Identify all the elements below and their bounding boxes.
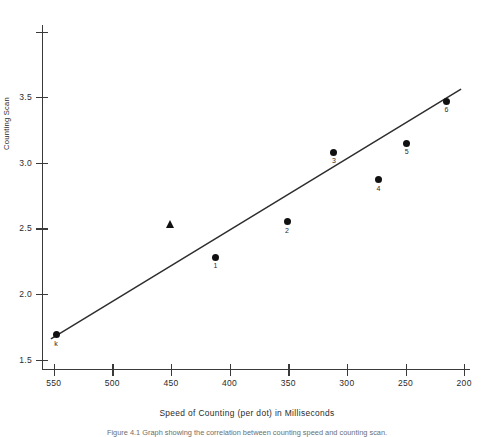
data-point-label-5: 5 <box>405 148 409 155</box>
data-point-label-1: 1 <box>213 262 217 269</box>
data-point-6 <box>443 98 450 105</box>
data-point-label-3: 3 <box>332 157 336 164</box>
data-point-label-k: k <box>54 340 58 347</box>
x-tick-label-300: 300 <box>327 378 367 388</box>
y-tick-2 <box>36 294 48 295</box>
regression-line <box>42 25 470 370</box>
y-tick-2.5 <box>36 228 48 229</box>
data-point-5 <box>403 140 410 147</box>
plot-area: 1.52.02.53.03.5 550500450400350300250200… <box>42 25 470 370</box>
figure-scatter-plot: Counting Scan Speed of Counting (per dot… <box>0 0 494 437</box>
x-tick-250 <box>406 364 407 376</box>
x-tick-label-200: 200 <box>444 378 484 388</box>
data-point-label-2: 2 <box>285 227 289 234</box>
x-tick-label-250: 250 <box>386 378 426 388</box>
y-tick-3 <box>36 163 48 164</box>
x-tick-400 <box>230 364 231 376</box>
y-tick-label-3.0: 3.0 <box>2 158 32 168</box>
x-tick-label-550: 550 <box>34 378 74 388</box>
y-tick-label-2.0: 2.0 <box>2 289 32 299</box>
figure-caption: Figure 4.1 Graph showing the correlation… <box>0 428 494 437</box>
x-tick-200 <box>464 364 465 376</box>
x-tick-350 <box>288 364 289 376</box>
y-tick-label-3.5: 3.5 <box>2 92 32 102</box>
y-tick-label-2.5: 2.5 <box>2 223 32 233</box>
y-tick-label-1.5: 1.5 <box>2 355 32 365</box>
data-point-k <box>53 331 60 338</box>
data-point-2 <box>284 218 291 225</box>
data-point-triangle <box>166 220 174 228</box>
y-tick-4 <box>36 32 48 33</box>
x-tick-450 <box>171 364 172 376</box>
x-tick-550 <box>54 364 55 376</box>
x-axis-title: Speed of Counting (per dot) in Milliseco… <box>0 408 494 418</box>
y-tick-1.5 <box>36 360 48 361</box>
x-tick-300 <box>347 364 348 376</box>
x-tick-label-400: 400 <box>210 378 250 388</box>
data-point-label-6: 6 <box>445 106 449 113</box>
x-tick-label-500: 500 <box>92 378 132 388</box>
data-point-label-4: 4 <box>376 185 380 192</box>
x-tick-label-450: 450 <box>151 378 191 388</box>
data-point-1 <box>212 254 219 261</box>
x-tick-label-350: 350 <box>268 378 308 388</box>
x-tick-500 <box>112 364 113 376</box>
y-axis-title: Counting Scan <box>2 97 11 150</box>
y-tick-3.5 <box>36 97 48 98</box>
